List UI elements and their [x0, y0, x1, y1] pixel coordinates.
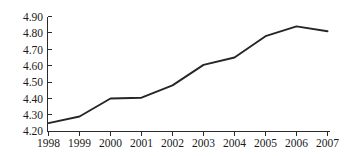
y-tick-label: 4.30	[23, 109, 43, 121]
y-tick-label: 4.20	[23, 125, 43, 137]
y-tick-label: 4.60	[23, 60, 43, 72]
x-tick-label: 2004	[223, 137, 246, 149]
x-tick-label: 2003	[192, 137, 215, 149]
y-tick-label: 4.90	[23, 11, 43, 23]
y-tick-label: 4.70	[23, 44, 43, 56]
y-tick-label: 4.80	[23, 27, 43, 39]
x-tick-label: 2001	[130, 137, 153, 149]
x-tick-label: 1998	[37, 137, 60, 149]
x-tick-label: 2005	[254, 137, 277, 149]
x-tick-label: 2007	[316, 137, 339, 149]
x-tick-label: 2002	[161, 137, 184, 149]
x-tick-label: 2006	[285, 137, 308, 149]
chart-figure: 4.90 4.80 4.70 4.60 4.50 4.40 4.30 4.20	[0, 0, 346, 156]
x-tick-label: 2000	[99, 137, 122, 149]
line-chart-plot: 4.90 4.80 4.70 4.60 4.50 4.40 4.30 4.20	[0, 0, 346, 156]
y-tick-label: 4.40	[23, 93, 43, 105]
y-tick-label: 4.50	[23, 76, 43, 88]
x-tick-label: 1999	[68, 137, 91, 149]
